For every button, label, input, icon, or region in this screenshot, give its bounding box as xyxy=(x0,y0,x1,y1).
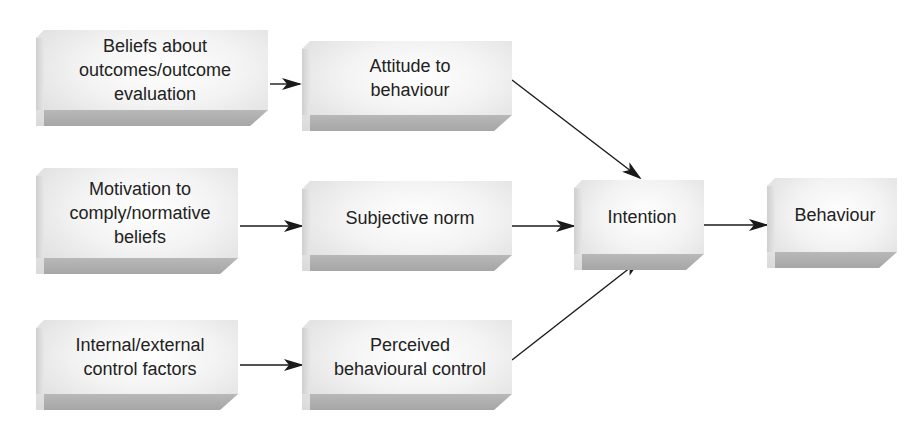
theory-of-planned-behaviour-diagram: Beliefs about outcomes/outcome evaluatio… xyxy=(0,0,924,436)
node-subjective-norm-label: Subjective norm xyxy=(312,181,508,255)
node-beliefs-label: Beliefs about outcomes/outcome evaluatio… xyxy=(46,30,264,110)
node-perceived-behavioural-control: Perceived behavioural control xyxy=(302,320,512,410)
node-attitude: Attitude to behaviour xyxy=(302,41,512,131)
arrow-attitude-to-intention xyxy=(512,80,640,178)
node-perceived-behavioural-control-label: Perceived behavioural control xyxy=(312,320,508,394)
node-behaviour-label: Behaviour xyxy=(777,178,893,252)
node-intention: Intention xyxy=(574,180,704,270)
node-attitude-label: Attitude to behaviour xyxy=(312,41,508,115)
node-behaviour: Behaviour xyxy=(767,178,897,268)
arrow-pbc-to-intention xyxy=(512,260,640,360)
node-control-factors-label: Internal/external control factors xyxy=(46,320,234,394)
node-beliefs: Beliefs about outcomes/outcome evaluatio… xyxy=(36,30,268,126)
node-intention-label: Intention xyxy=(584,180,700,254)
node-control-factors: Internal/external control factors xyxy=(36,320,238,410)
node-subjective-norm: Subjective norm xyxy=(302,181,512,271)
node-motivation-label: Motivation to comply/normative beliefs xyxy=(46,168,234,258)
node-motivation: Motivation to comply/normative beliefs xyxy=(36,168,238,274)
